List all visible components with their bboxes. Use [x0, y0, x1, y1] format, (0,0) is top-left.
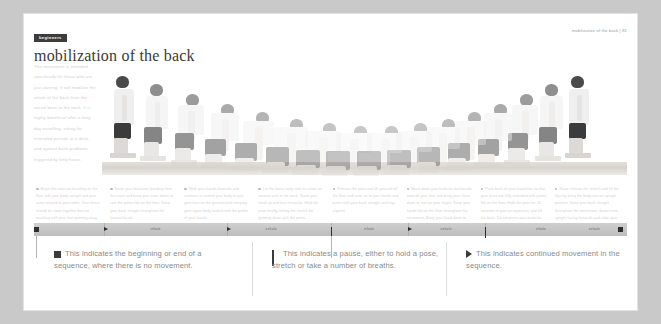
legend-triangle-icon: [466, 250, 472, 258]
intro-line: sacral bone to the neck. It is: [34, 103, 106, 113]
figure-thigh: [175, 148, 191, 160]
page-sheet: beginners mobilization of the back mobil…: [24, 14, 637, 310]
legend-square-icon: [54, 251, 61, 258]
figure-shorts: [144, 127, 162, 143]
caption-text: Begin the exercise kneeling on the floor…: [36, 187, 100, 227]
intro-line: and against back problems: [34, 144, 106, 154]
figure-shin: [353, 171, 379, 176]
intro-line: extended periods at a desk,: [34, 134, 106, 144]
figure-shin: [110, 153, 136, 158]
intro-line: just starting. It will mobilize the: [34, 83, 106, 93]
figure-thigh: [144, 142, 159, 156]
timeline-marker-square: [618, 227, 623, 232]
caption-text: Move down your buttocks backwards toward…: [407, 187, 472, 227]
leader-line: [331, 236, 332, 258]
figure-arm: [155, 102, 161, 130]
timeline-marker-pause: [331, 227, 336, 233]
intro-line: highly beneficial after a long: [34, 113, 106, 123]
step-caption: Let the lower body sink to create an inv…: [258, 186, 324, 222]
timeline-marker-triangle: [408, 227, 412, 231]
breath-label: exhale: [266, 227, 277, 231]
caption-text: Raise release the stretch and lift the h…: [555, 187, 619, 227]
figure-shin: [201, 163, 227, 168]
bullet-icon: [36, 188, 39, 191]
figure-shin: [262, 168, 288, 173]
caption-text: Raise your forearms, bending from the wa…: [110, 187, 173, 220]
breath-label: exhale: [441, 227, 452, 231]
figure-thigh: [114, 138, 128, 154]
intro-line: whole of the back from the: [34, 93, 106, 103]
step-caption: Walk your hands forwards and continue to…: [184, 186, 250, 222]
bullet-icon: [184, 188, 187, 191]
photo-sequence: [102, 56, 627, 181]
caption-text: Walk your hands forwards and continue to…: [184, 187, 248, 220]
figure-shin: [231, 166, 257, 171]
bullet-icon: [258, 188, 261, 191]
figure-shin: [292, 170, 318, 175]
timeline-marker-triangle: [227, 227, 231, 231]
caption-row: Begin the exercise kneeling on the floor…: [34, 186, 627, 228]
legend-pause-icon: [272, 250, 279, 258]
step-caption: Raise your forearms, bending from the wa…: [110, 186, 176, 222]
legend-text: This indicates the beginning or end of a…: [54, 249, 202, 270]
legend-item: This indicates a pause, either to hold a…: [262, 248, 440, 273]
figure-arm: [381, 139, 390, 175]
caption-text: Release the pose and lift yourself off t…: [333, 187, 399, 213]
intro-line: day travelling, sitting for: [34, 124, 106, 134]
legend-item: This indicates continued movement in the…: [456, 248, 634, 273]
intro-line: This movement is intended: [34, 62, 106, 72]
breath-label: inhale: [150, 227, 160, 231]
level-badge: beginners: [34, 34, 67, 42]
breath-label: inhale: [536, 227, 546, 231]
breath-timeline: inhaleexhaleinhaleexhaleinhaleexhale: [34, 223, 627, 236]
caption-text: Let the lower body sink to create an inv…: [258, 187, 321, 220]
figure-head: [116, 76, 129, 88]
legend-divider-2: [446, 242, 447, 296]
figure-shin: [171, 160, 197, 165]
bullet-icon: [333, 188, 336, 191]
breath-label: inhale: [364, 227, 374, 231]
figure-shin: [322, 171, 348, 176]
step-caption: Release the pose and lift yourself off t…: [333, 186, 399, 215]
bullet-icon: [481, 188, 484, 191]
legend-text: This indicates continued movement in the…: [466, 249, 620, 270]
figure-shorts: [114, 123, 131, 139]
legend-divider-1: [252, 242, 253, 296]
legend-item: This indicates the beginning or end of a…: [44, 248, 222, 273]
timeline-marker-triangle: [104, 227, 108, 231]
running-folio: mobilization of the back | 81: [572, 28, 627, 33]
figure-pose: [351, 73, 413, 171]
figure-head: [150, 84, 163, 96]
page-header: beginners mobilization of the back mobil…: [34, 25, 627, 55]
breath-label: exhale: [589, 227, 600, 231]
leader-line: [36, 236, 37, 258]
bullet-icon: [407, 188, 410, 191]
bullet-icon: [555, 188, 558, 191]
bullet-icon: [110, 188, 113, 191]
figure-shin: [140, 156, 166, 161]
timeline-marker-square: [34, 227, 39, 232]
timeline-marker-pause: [485, 227, 490, 233]
intro-paragraph: This movement is intendedspecifically fo…: [34, 62, 106, 165]
intro-line: triggered by long hours.: [34, 155, 106, 165]
figure-arm: [122, 95, 127, 121]
legend-text: This indicates a pause, either to hold a…: [272, 249, 438, 270]
intro-line: specifically for those who are: [34, 72, 106, 82]
